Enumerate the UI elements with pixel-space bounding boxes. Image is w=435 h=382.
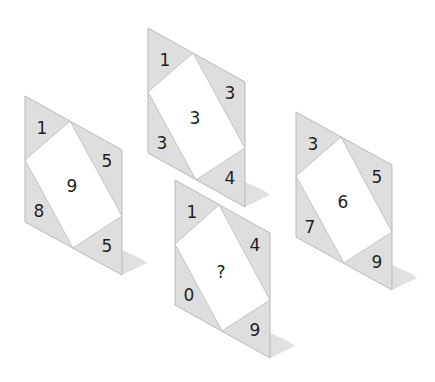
center-value: 9	[67, 176, 78, 196]
corner-top-left: 1	[37, 118, 48, 138]
corner-bottom-left: 3	[157, 133, 168, 153]
center-value: 6	[338, 192, 349, 212]
corner-top-right: 4	[250, 235, 261, 255]
puzzle-canvas: 1 5 8 5 9 1 3 3 4 3 1 4 0 9 ? 3 5 7 9 6	[0, 0, 435, 382]
corner-top-right: 5	[102, 151, 113, 171]
corner-bottom-right: 5	[102, 236, 113, 256]
corner-bottom-right: 4	[225, 168, 236, 188]
panel-right: 3 5 7 9 6	[296, 112, 417, 290]
corner-top-left: 1	[187, 202, 198, 222]
corner-top-left: 1	[160, 50, 171, 70]
panel-shadow	[122, 250, 147, 275]
corner-top-right: 5	[372, 167, 383, 187]
corner-top-right: 3	[225, 83, 236, 103]
corner-bottom-left: 0	[184, 285, 195, 305]
corner-bottom-right: 9	[372, 252, 383, 272]
corner-bottom-left: 8	[34, 201, 45, 221]
panel-shadow	[245, 182, 270, 207]
corner-bottom-left: 7	[305, 217, 316, 237]
panel-left: 1 5 8 5 9	[25, 96, 147, 275]
center-value: 3	[190, 108, 201, 128]
panel-top: 1 3 3 4 3	[148, 28, 270, 207]
corner-top-left: 3	[308, 134, 319, 154]
panel-shadow	[270, 333, 295, 358]
panel-middle: 1 4 0 9 ?	[175, 180, 295, 358]
center-question-mark: ?	[216, 262, 225, 282]
panel-shadow	[392, 265, 417, 290]
corner-bottom-right: 9	[250, 320, 261, 340]
